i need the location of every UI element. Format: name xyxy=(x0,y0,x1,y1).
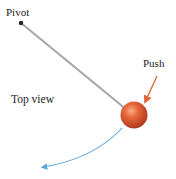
arrow-icon xyxy=(146,76,157,100)
diagram-canvas xyxy=(0,0,176,179)
top-view-label: Top view xyxy=(11,94,54,106)
pendulum-top-view-diagram: Pivot Push Top view xyxy=(0,0,176,179)
curved-arrow-icon xyxy=(44,128,122,167)
pivot-label: Pivot xyxy=(6,7,29,18)
pivot-dot-icon xyxy=(19,21,23,25)
ball-icon xyxy=(121,102,148,129)
push-label: Push xyxy=(143,58,164,69)
